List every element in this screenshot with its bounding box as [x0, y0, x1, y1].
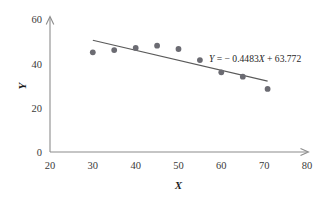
data-point — [90, 49, 96, 55]
x-axis — [50, 148, 309, 155]
x-tick-label-70: 70 — [259, 160, 270, 171]
data-point — [176, 46, 182, 52]
x-tick-label-60: 60 — [216, 160, 227, 171]
y-tick-label-40: 40 — [32, 59, 43, 70]
data-point — [218, 69, 224, 75]
data-point — [133, 45, 139, 51]
data-point — [240, 74, 246, 80]
data-point — [111, 47, 117, 53]
y-axis — [46, 17, 54, 153]
equation-operator: = − 0.4483 — [214, 53, 259, 64]
x-tick-label-80: 80 — [302, 160, 313, 171]
y-tick-label-20: 20 — [32, 103, 43, 114]
y-axis-title: Y — [16, 81, 28, 89]
scatter-chart: 0 20 40 60 20 30 40 50 60 70 80 X Y — [0, 0, 327, 197]
x-tick-label-20: 20 — [45, 160, 56, 171]
regression-equation-label: Y = − 0.4483X + 63.772 — [209, 53, 301, 64]
chart-canvas: 0 20 40 60 20 30 40 50 60 70 80 X Y — [0, 0, 327, 197]
x-tick-label-40: 40 — [130, 160, 141, 171]
equation-constant: + 63.772 — [265, 53, 302, 64]
data-point — [197, 57, 203, 63]
y-tick-label-60: 60 — [32, 14, 43, 25]
x-tick-label-30: 30 — [88, 160, 99, 171]
data-points — [90, 43, 271, 92]
data-point — [265, 86, 271, 92]
data-point — [154, 43, 160, 49]
x-tick-label-50: 50 — [173, 160, 184, 171]
x-axis-title: X — [174, 179, 183, 191]
y-tick-label-0: 0 — [37, 147, 42, 158]
